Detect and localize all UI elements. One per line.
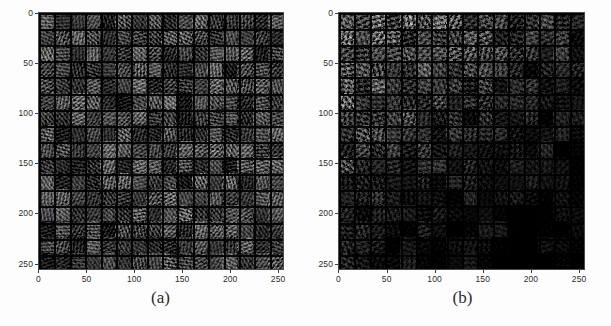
sample-tile-texture	[431, 125, 446, 141]
sample-tile	[370, 221, 385, 237]
sample-tile	[416, 13, 431, 29]
sample-tile-texture	[492, 125, 507, 141]
sample-tile	[222, 221, 237, 237]
sample-tile	[54, 13, 69, 29]
sample-tile	[176, 157, 191, 173]
sample-tile	[370, 13, 385, 29]
sample-tile	[507, 13, 522, 29]
sample-tile	[507, 253, 522, 269]
sample-tile-texture	[100, 205, 115, 221]
sample-tile	[192, 29, 207, 45]
sample-tile-texture	[222, 237, 237, 253]
sample-tile	[222, 29, 237, 45]
sample-tile-texture	[523, 45, 538, 61]
sample-tile-texture	[85, 109, 100, 125]
sample-tile-texture	[70, 157, 85, 173]
sample-tile-texture	[569, 13, 584, 29]
sample-tile-texture	[207, 61, 222, 77]
sample-tile-texture	[85, 189, 100, 205]
sample-tile	[70, 61, 85, 77]
sample-tile	[70, 173, 85, 189]
sample-tile	[54, 189, 69, 205]
sample-tile	[192, 13, 207, 29]
sample-tile	[39, 77, 54, 93]
sample-tile	[492, 189, 507, 205]
sample-tile-texture	[39, 13, 54, 29]
ytick-label: 50	[23, 58, 33, 68]
sample-tile	[222, 157, 237, 173]
sample-tile-texture	[115, 189, 130, 205]
sample-tile	[115, 253, 130, 269]
sample-tile-texture	[115, 237, 130, 253]
sample-tile	[253, 29, 268, 45]
sample-tile	[39, 109, 54, 125]
sample-tile	[85, 173, 100, 189]
sample-tile-texture	[70, 125, 85, 141]
sample-tile	[39, 205, 54, 221]
sample-tile-texture	[446, 237, 461, 253]
sample-tile-texture	[385, 189, 400, 205]
sample-tile-texture	[253, 189, 268, 205]
sample-tile	[569, 237, 584, 253]
sample-tile-texture	[400, 205, 415, 221]
sample-tile	[39, 13, 54, 29]
sample-tile	[54, 61, 69, 77]
sample-tile-texture	[339, 125, 354, 141]
sample-tile	[400, 13, 415, 29]
sample-tile	[416, 45, 431, 61]
sample-tile-texture	[268, 253, 283, 269]
sample-tile	[146, 189, 161, 205]
sample-tile-texture	[416, 253, 431, 269]
sample-tile-texture	[385, 77, 400, 93]
sample-tile-texture	[39, 61, 54, 77]
sample-tile-texture	[462, 237, 477, 253]
sample-tile	[446, 45, 461, 61]
ytick-label: 100	[19, 108, 33, 118]
sample-tile-texture	[131, 13, 146, 29]
sample-tile-texture	[131, 205, 146, 221]
sample-tile	[553, 253, 568, 269]
sample-tile	[192, 173, 207, 189]
sample-tile	[85, 13, 100, 29]
sample-tile	[339, 157, 354, 173]
sample-tile-texture	[207, 109, 222, 125]
sample-tile-texture	[192, 125, 207, 141]
sample-tile	[523, 93, 538, 109]
sample-tile-texture	[39, 173, 54, 189]
sample-tile-texture	[507, 77, 522, 93]
sample-tile	[176, 61, 191, 77]
sample-tile	[400, 61, 415, 77]
sample-tile-texture	[462, 77, 477, 93]
sample-tile	[207, 173, 222, 189]
sample-tile-texture	[400, 189, 415, 205]
sample-tile-texture	[400, 61, 415, 77]
sample-tile-texture	[569, 125, 584, 141]
sample-tile	[462, 109, 477, 125]
sample-tile-texture	[100, 253, 115, 269]
sample-tile	[354, 45, 369, 61]
sample-tile-texture	[237, 45, 252, 61]
sample-tile	[431, 221, 446, 237]
sample-tile-texture	[385, 157, 400, 173]
sample-tile	[477, 205, 492, 221]
sample-tile	[416, 237, 431, 253]
sample-tile	[538, 109, 553, 125]
sample-tile-texture	[70, 61, 85, 77]
sample-tile	[339, 29, 354, 45]
sample-tile-texture	[161, 237, 176, 253]
sample-tile-texture	[431, 29, 446, 45]
sample-tile	[462, 157, 477, 173]
sample-tile	[115, 109, 130, 125]
sample-tile	[253, 221, 268, 237]
sample-tile	[370, 253, 385, 269]
sample-tile-texture	[523, 189, 538, 205]
sample-tile	[416, 253, 431, 269]
sample-tile-texture	[538, 173, 553, 189]
panel-caption-a: (a)	[0, 288, 313, 308]
sample-tile	[85, 109, 100, 125]
sample-tile	[477, 173, 492, 189]
sample-tile	[370, 173, 385, 189]
sample-tile-texture	[492, 173, 507, 189]
sample-tile	[492, 141, 507, 157]
sample-tile-texture	[222, 205, 237, 221]
